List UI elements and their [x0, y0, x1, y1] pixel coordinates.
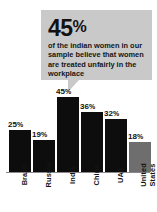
bar-china[interactable]	[81, 112, 103, 172]
tick-label-uae: UAE	[105, 175, 127, 212]
x-axis-tick-labels: Brazil Russia India China UAE United Sta…	[8, 173, 150, 212]
infographic-root: 45% of the indian women in our sample be…	[0, 0, 157, 212]
bar-uae[interactable]	[105, 119, 127, 172]
bar-value-percent-russia: %	[41, 131, 47, 138]
bar-value-number-india: 45	[56, 87, 65, 96]
callout-headline-percent: %	[73, 18, 87, 35]
bar-india[interactable]	[57, 97, 79, 172]
tick-label-brazil: Brazil	[9, 175, 31, 212]
callout-headline-number: 45	[48, 15, 73, 41]
callout-body-text: of the indian women in our sample believ…	[48, 41, 146, 79]
bar-value-number-uae: 32	[104, 109, 113, 118]
tick-label-india: India	[57, 175, 79, 212]
bar-value-percent-india: %	[65, 88, 71, 95]
bar-value-number-brazil: 25	[8, 120, 17, 129]
bar-value-brazil: 25%	[8, 120, 34, 129]
bar-value-china: 36%	[80, 102, 106, 111]
bar-value-percent-china: %	[89, 103, 95, 110]
bar-chart: 25% 19% 45% 36% 32% 18%	[0, 88, 157, 212]
bar-value-number-united-states: 18	[128, 132, 137, 141]
bar-value-india: 45%	[56, 87, 82, 96]
tick-label-text-united-states: United States	[140, 155, 157, 195]
tick-label-text-uae: UAE	[116, 167, 125, 183]
tick-label-text-brazil: Brazil	[20, 165, 29, 186]
bar-value-percent-uae: %	[113, 110, 119, 117]
bar-value-percent-brazil: %	[17, 121, 23, 128]
bar-value-uae: 32%	[104, 109, 130, 118]
tick-label-text-india: India	[68, 166, 77, 184]
bar-value-russia: 19%	[32, 130, 58, 139]
tick-label-text-russia: Russia	[44, 163, 53, 188]
bar-value-united-states: 18%	[128, 132, 154, 141]
tick-label-text-china: China	[92, 164, 101, 185]
callout-headline: 45%	[48, 15, 146, 40]
chart-plot-area: 25% 19% 45% 36% 32% 18%	[8, 88, 150, 172]
tick-label-united-states: United States	[129, 175, 151, 212]
callout-box: 45% of the indian women in our sample be…	[41, 10, 152, 80]
tick-label-china: China	[81, 175, 103, 212]
bar-value-percent-united-states: %	[137, 133, 143, 140]
bar-value-number-russia: 19	[32, 130, 41, 139]
bar-value-number-china: 36	[80, 102, 89, 111]
tick-label-russia: Russia	[33, 175, 55, 212]
